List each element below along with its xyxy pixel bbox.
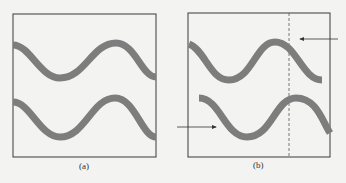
panel-b-top-wave bbox=[189, 42, 322, 80]
panel-b-bottom-wave bbox=[199, 98, 330, 137]
panel-b-caption: (b) bbox=[253, 160, 264, 170]
panel-a-top-wave bbox=[13, 43, 156, 78]
panel-a-bottom-wave bbox=[13, 98, 156, 137]
panel-a-caption: (a) bbox=[79, 161, 89, 171]
panel-a-frame bbox=[13, 14, 156, 157]
figure: (a) (b) bbox=[0, 0, 346, 183]
diagram-canvas bbox=[0, 0, 346, 183]
panel-b bbox=[177, 13, 338, 157]
panel-a bbox=[13, 14, 156, 157]
